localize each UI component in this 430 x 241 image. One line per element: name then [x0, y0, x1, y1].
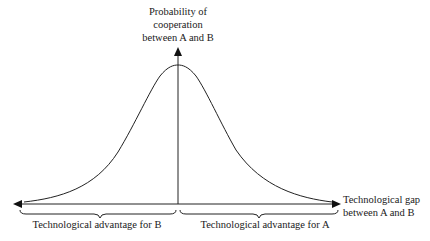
y-axis-arrowhead-icon [174, 47, 182, 56]
right-brace [180, 210, 338, 218]
x-axis-right-arrowhead-icon [332, 200, 341, 208]
diagram-canvas [0, 0, 430, 241]
left-brace [20, 210, 176, 218]
x-axis-left-arrowhead-icon [13, 200, 22, 208]
